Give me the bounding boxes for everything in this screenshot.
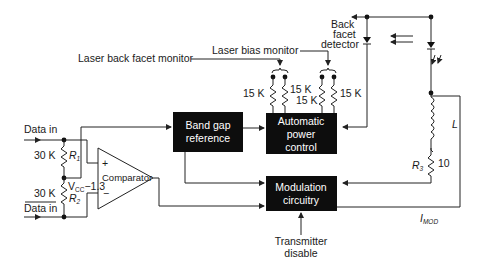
band-gap-reference-block: Band gap reference	[173, 112, 243, 152]
inductor-label: L	[452, 118, 458, 130]
svg-text:Automatic: Automatic	[278, 115, 325, 127]
r1-value: 30 K	[34, 149, 56, 161]
data-in-bottom-label: Data in	[24, 202, 57, 214]
photodiode-icon	[363, 37, 371, 44]
svg-text:disable: disable	[284, 247, 317, 259]
back-facet-detector-label: Back facet detector	[321, 18, 359, 50]
svg-text:Transmitter: Transmitter	[275, 235, 328, 247]
svg-text:detector: detector	[321, 38, 359, 50]
automatic-power-control-block: Automatic power control	[266, 113, 337, 154]
laser-diode-icon	[427, 42, 435, 49]
light-arrows-icon	[391, 36, 413, 42]
resistor-r1	[61, 140, 67, 178]
data-in-top-label: Data in	[24, 123, 57, 135]
bias-resistor-a-value: 15 K	[243, 87, 265, 99]
r3-value: 10	[438, 157, 450, 169]
svg-text:reference: reference	[186, 132, 231, 144]
svg-text:Band gap: Band gap	[186, 119, 231, 131]
bias-resistor-a	[270, 77, 276, 113]
bias-pair-right-brace	[320, 68, 336, 73]
svg-text:−: −	[103, 187, 109, 199]
r1-name: R1	[69, 149, 81, 162]
laser-bias-monitor-label: Laser bias monitor	[212, 44, 328, 65]
bias-resistor-d	[331, 77, 337, 113]
bias-resistor-c	[319, 77, 325, 113]
r3-name: R3	[412, 159, 424, 172]
bias-pair-left-brace	[272, 68, 288, 73]
r2-name: R2	[69, 192, 81, 205]
bias-resistor-b	[282, 77, 288, 113]
inductor-icon	[431, 93, 434, 148]
bias-resistor-c-value: 15 K	[296, 94, 318, 106]
svg-text:power: power	[287, 128, 316, 140]
svg-text:circuitry: circuitry	[283, 194, 320, 206]
emission-arrows-icon	[432, 55, 441, 64]
svg-text:Laser back facet monitor: Laser back facet monitor	[78, 52, 193, 64]
bias-test-points	[271, 75, 337, 80]
svg-text:Laser bias monitor: Laser bias monitor	[212, 44, 299, 56]
transmitter-disable-label: Transmitter disable	[275, 235, 328, 259]
resistor-r3	[428, 148, 434, 182]
junction-dot	[62, 215, 67, 220]
resistor-r2	[61, 178, 67, 217]
laser-driver-diagram: Laser back facet monitor Laser bias moni…	[0, 0, 479, 275]
bias-resistor-d-value: 15 K	[340, 87, 362, 99]
comparator: + − Comparator	[98, 148, 153, 209]
svg-text:Modulation: Modulation	[275, 181, 327, 193]
imod-label: IMOD	[420, 212, 438, 225]
r2-value: 30 K	[34, 187, 56, 199]
svg-text:+: +	[102, 157, 108, 169]
modulation-circuitry-block: Modulation circuitry	[266, 176, 337, 211]
svg-text:Comparator: Comparator	[102, 172, 152, 183]
svg-text:control: control	[285, 141, 317, 153]
